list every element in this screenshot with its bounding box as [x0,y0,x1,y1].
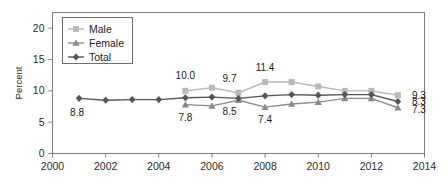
data-point-total [288,91,295,98]
data-label: 7.3 [412,104,426,115]
x-tick-label: 2008 [253,160,277,172]
data-point-total [182,94,189,101]
data-point-total [102,97,109,104]
y-axis-title: Percent [13,66,24,99]
data-label: 7.4 [258,114,272,125]
y-axis-ticks: 05101520 [33,22,53,159]
x-tick-label: 2012 [360,160,384,172]
data-label: 9.7 [223,73,237,84]
x-axis-ticks: 20002002200420062008201020122014 [41,154,437,172]
x-tick-label: 2002 [94,160,118,172]
y-tick-label: 10 [33,84,45,96]
data-label: 8.8 [70,107,84,118]
data-point-total [155,96,162,103]
data-point-total [76,95,83,102]
legend-marker-male [73,26,79,32]
x-tick-label: 2014 [413,160,437,172]
data-point-male [289,79,295,85]
data-point-total [262,92,269,99]
y-tick-label: 5 [39,116,45,128]
data-label: 7.8 [178,112,192,123]
y-tick-label: 0 [39,147,45,159]
data-point-male [262,79,268,85]
data-point-male [182,88,188,94]
data-point-male [209,85,215,91]
chart-container: 05101520 2000200220042006200820102012201… [0,0,448,194]
legend-label: Total [89,51,111,63]
x-tick-label: 2004 [147,160,171,172]
x-tick-label: 2006 [200,160,224,172]
data-label: 11.4 [256,62,275,73]
data-point-total [395,98,402,105]
data-point-total [129,96,136,103]
data-label: 10.0 [176,70,196,81]
line-chart: 05101520 2000200220042006200820102012201… [0,0,448,194]
y-tick-label: 20 [33,22,45,34]
data-point-total [315,92,322,99]
legend-label: Male [89,23,112,35]
data-point-male [395,92,401,98]
legend-label: Female [89,37,124,49]
y-tick-label: 15 [33,53,45,65]
x-tick-label: 2010 [307,160,331,172]
data-label: 8.5 [223,106,237,117]
data-point-male [315,83,321,89]
data-point-total [209,94,216,101]
chart-legend: MaleFemaleTotal [63,18,133,64]
x-tick-label: 2000 [41,160,65,172]
